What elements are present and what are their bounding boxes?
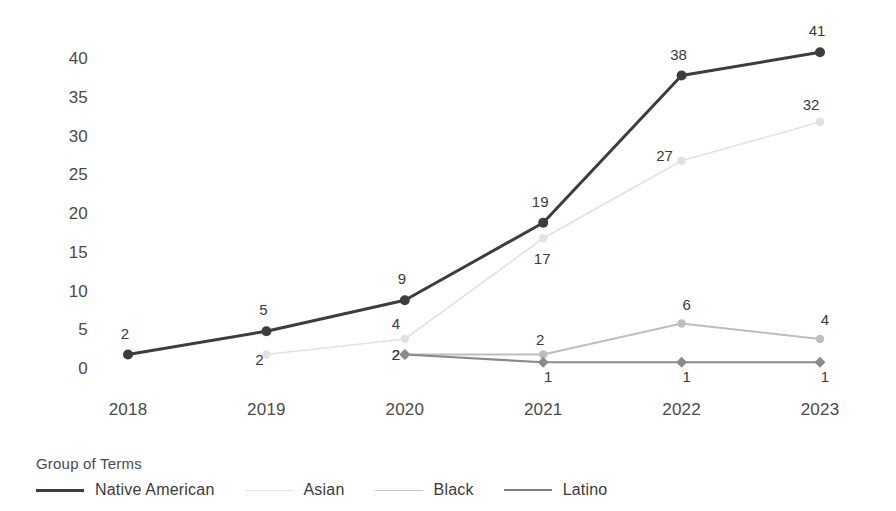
- legend-item-label: Asian: [304, 481, 345, 499]
- legend-item-asian[interactable]: Asian: [245, 481, 375, 499]
- y-axis-tick-label: 10: [40, 282, 88, 302]
- data-point-label: 1: [812, 368, 838, 385]
- series-marker: [815, 357, 826, 368]
- series-marker: [676, 357, 687, 368]
- y-axis-tick-label: 30: [40, 127, 88, 147]
- line-chart: 0510152025303540 20182019202020212022202…: [0, 0, 896, 511]
- data-point-label: 2: [383, 346, 409, 363]
- series-marker: [401, 335, 409, 343]
- series-marker: [539, 234, 547, 242]
- series-marker: [123, 350, 133, 360]
- data-point-label: 4: [383, 315, 409, 332]
- data-point-label: 6: [674, 296, 700, 313]
- data-point-label: 2: [527, 331, 553, 348]
- legend-item-latino[interactable]: Latino: [504, 481, 638, 499]
- x-axis-tick-label: 2023: [775, 400, 865, 420]
- legend-line-swatch: [245, 490, 293, 491]
- series-marker: [677, 319, 685, 327]
- series-marker: [261, 326, 271, 336]
- data-point-label: 2: [246, 351, 272, 368]
- legend-title: Group of Terms: [36, 455, 856, 472]
- legend-line-swatch: [36, 489, 84, 492]
- legend-line-swatch: [375, 490, 423, 491]
- data-point-label: 9: [389, 270, 415, 287]
- legend-item-label: Black: [434, 481, 474, 499]
- x-axis-tick-label: 2019: [221, 400, 311, 420]
- series-line: [128, 52, 820, 354]
- data-point-label: 27: [652, 147, 678, 164]
- y-axis-tick-label: 20: [40, 204, 88, 224]
- series-marker: [677, 71, 687, 81]
- data-point-label: 32: [798, 96, 824, 113]
- chart-plot-area: [0, 0, 896, 511]
- legend-item-label: Native American: [95, 481, 215, 499]
- data-point-label: 41: [804, 22, 830, 39]
- series-marker: [816, 118, 824, 126]
- legend-item-list: Native AmericanAsianBlackLatino: [36, 481, 856, 499]
- series-marker: [538, 218, 548, 228]
- chart-legend: Group of Terms Native AmericanAsianBlack…: [36, 455, 856, 499]
- data-point-label: 4: [812, 311, 838, 328]
- series-line: [405, 355, 820, 363]
- x-axis-tick-label: 2022: [637, 400, 727, 420]
- series-marker: [677, 157, 685, 165]
- data-point-label: 1: [674, 368, 700, 385]
- legend-line-swatch: [504, 489, 552, 491]
- data-point-label: 2: [112, 325, 138, 342]
- y-axis-tick-label: 15: [40, 243, 88, 263]
- data-point-label: 1: [535, 368, 561, 385]
- legend-item-black[interactable]: Black: [375, 481, 504, 499]
- series-marker: [538, 357, 549, 368]
- data-point-label: 17: [529, 250, 555, 267]
- legend-item-native-american[interactable]: Native American: [36, 481, 245, 499]
- legend-item-label: Latino: [563, 481, 608, 499]
- series-marker: [815, 47, 825, 57]
- data-point-label: 38: [666, 46, 692, 63]
- series-marker: [400, 295, 410, 305]
- x-axis-tick-label: 2020: [360, 400, 450, 420]
- y-axis-tick-label: 0: [40, 359, 88, 379]
- y-axis-tick-label: 35: [40, 88, 88, 108]
- y-axis-tick-label: 40: [40, 49, 88, 69]
- series-marker: [816, 335, 824, 343]
- series-line: [405, 324, 820, 355]
- data-point-label: 5: [250, 301, 276, 318]
- y-axis-tick-label: 25: [40, 165, 88, 185]
- data-point-label: 19: [527, 193, 553, 210]
- y-axis-tick-label: 5: [40, 320, 88, 340]
- x-axis-tick-label: 2021: [498, 400, 588, 420]
- x-axis-tick-label: 2018: [83, 400, 173, 420]
